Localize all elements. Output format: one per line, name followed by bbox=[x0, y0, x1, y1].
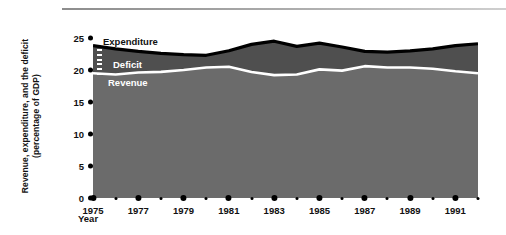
x-axis-tick-label: 1985 bbox=[309, 205, 330, 216]
chart-figure: Revenue, expenditure, and the deficit (p… bbox=[0, 0, 506, 235]
x-axis-tick-minor bbox=[341, 197, 344, 200]
x-axis-tick-dot-minor bbox=[341, 197, 344, 200]
x-axis-tick-minor bbox=[477, 197, 480, 200]
x-axis-tick-major: 1985 bbox=[309, 195, 330, 216]
x-axis-tick-dot bbox=[407, 195, 413, 201]
x-axis-tick-minor bbox=[159, 197, 162, 200]
x-axis-tick-major: 1987 bbox=[354, 195, 375, 216]
x-axis-tick-label: 1987 bbox=[354, 205, 375, 216]
x-axis: 197519771979198119831985198719891991 bbox=[0, 0, 506, 235]
x-axis-tick-label: 1979 bbox=[173, 205, 194, 216]
x-axis-tick-dot-minor bbox=[205, 197, 208, 200]
x-axis-tick-major: 1977 bbox=[128, 195, 149, 216]
x-axis-tick-label: 1989 bbox=[399, 205, 420, 216]
x-axis-tick-dot bbox=[271, 195, 277, 201]
x-axis-tick-dot-minor bbox=[431, 197, 434, 200]
x-axis-tick-minor bbox=[114, 197, 117, 200]
x-axis-tick-label: 1991 bbox=[445, 205, 466, 216]
x-axis-tick-dot-minor bbox=[159, 197, 162, 200]
x-axis-tick-major: 1989 bbox=[399, 195, 420, 216]
x-axis-tick-minor bbox=[431, 197, 434, 200]
x-axis-tick-dot bbox=[316, 195, 322, 201]
x-axis-title: Year bbox=[78, 213, 98, 224]
x-axis-tick-dot-minor bbox=[295, 197, 298, 200]
x-axis-tick-dot bbox=[135, 195, 141, 201]
x-axis-tick-dot-minor bbox=[477, 197, 480, 200]
x-axis-tick-dot bbox=[362, 195, 368, 201]
x-axis-tick-major: 1983 bbox=[264, 195, 285, 216]
x-axis-tick-dot bbox=[90, 195, 96, 201]
x-axis-tick-label: 1983 bbox=[264, 205, 285, 216]
x-axis-tick-dot-minor bbox=[386, 197, 389, 200]
x-axis-tick-minor bbox=[386, 197, 389, 200]
x-axis-tick-dot-minor bbox=[250, 197, 253, 200]
x-axis-tick-dot bbox=[452, 195, 458, 201]
x-axis-tick-major: 1979 bbox=[173, 195, 194, 216]
x-axis-tick-major: 1991 bbox=[445, 195, 466, 216]
x-axis-tick-minor bbox=[205, 197, 208, 200]
x-axis-tick-label: 1977 bbox=[128, 205, 149, 216]
x-axis-tick-dot bbox=[226, 195, 232, 201]
x-axis-tick-dot bbox=[181, 195, 187, 201]
x-axis-tick-minor bbox=[250, 197, 253, 200]
x-axis-tick-label: 1981 bbox=[218, 205, 239, 216]
x-axis-tick-minor bbox=[295, 197, 298, 200]
x-axis-tick-major: 1981 bbox=[218, 195, 239, 216]
x-axis-tick-dot-minor bbox=[114, 197, 117, 200]
